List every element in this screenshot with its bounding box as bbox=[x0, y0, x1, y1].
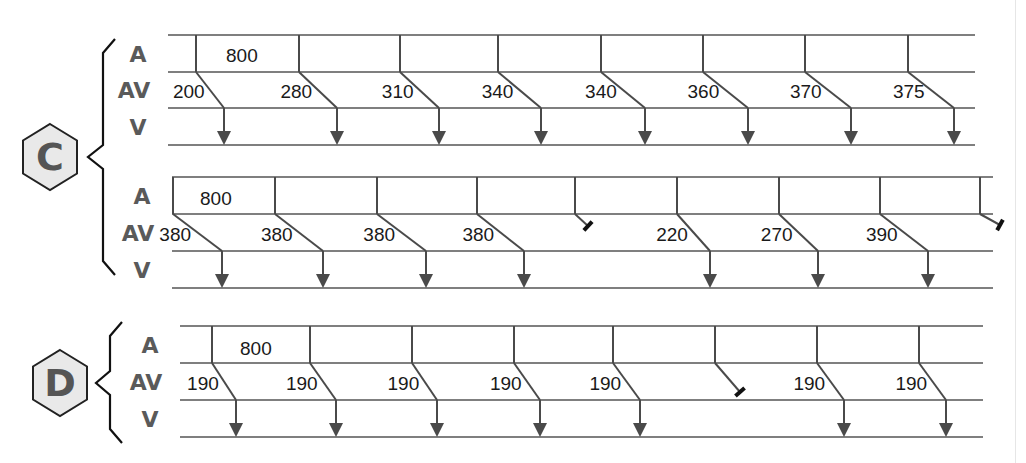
arrow-down-icon bbox=[229, 423, 243, 437]
arrow-down-icon bbox=[947, 131, 961, 145]
arrow-down-icon bbox=[329, 423, 343, 437]
tier-label-a: A bbox=[141, 333, 158, 358]
ladder-strip: AAVV800200280310340340360370375 bbox=[118, 35, 975, 145]
av-interval-label: 190 bbox=[589, 373, 621, 394]
conducted-beat: 340 bbox=[585, 35, 652, 145]
arrow-down-icon bbox=[419, 274, 433, 288]
panel-letter-label: D bbox=[44, 361, 76, 405]
brace-bracket bbox=[88, 39, 115, 275]
atrial-cycle-length-label: 800 bbox=[226, 45, 258, 66]
arrow-down-icon bbox=[517, 274, 531, 288]
tier-label-av: AV bbox=[130, 370, 163, 395]
panel-letter-label: C bbox=[36, 135, 64, 179]
tier-label-av: AV bbox=[118, 78, 151, 103]
conducted-beat: 190 bbox=[589, 326, 647, 437]
av-interval-label: 340 bbox=[585, 81, 617, 102]
conducted-beat: 375 bbox=[893, 35, 961, 145]
arrow-down-icon bbox=[330, 131, 344, 145]
av-interval-label: 370 bbox=[790, 81, 822, 102]
conducted-beat: 380 bbox=[462, 177, 531, 288]
page-edge-divider bbox=[1015, 0, 1016, 463]
conducted-beat: 220 bbox=[656, 177, 717, 288]
av-interval-label: 270 bbox=[761, 224, 793, 245]
blocked-beat bbox=[980, 177, 1003, 230]
blocked-beat bbox=[575, 177, 592, 230]
av-interval-label: 380 bbox=[261, 224, 293, 245]
conducted-beat: 190 bbox=[286, 326, 343, 437]
conducted-beat: 340 bbox=[482, 35, 548, 145]
tier-label-a: A bbox=[129, 42, 146, 67]
conduction-block-icon bbox=[997, 220, 1003, 231]
conducted-beat: 380 bbox=[363, 177, 433, 288]
conducted-beat: 360 bbox=[688, 35, 755, 145]
conducted-beat: 190 bbox=[895, 326, 953, 437]
ladder-strip: AAVV800190190190190190190190 bbox=[130, 326, 983, 437]
tier-label-av: AV bbox=[122, 221, 155, 246]
arrow-down-icon bbox=[844, 131, 858, 145]
av-interval-label: 190 bbox=[388, 373, 420, 394]
arrow-down-icon bbox=[837, 423, 851, 437]
tier-label-a: A bbox=[133, 184, 150, 209]
av-interval-label: 220 bbox=[656, 224, 688, 245]
blocked-conduction-line bbox=[715, 363, 740, 392]
conducted-beat: 190 bbox=[388, 326, 444, 437]
conducted-beat: 380 bbox=[261, 177, 330, 288]
av-interval-label: 390 bbox=[866, 224, 898, 245]
conducted-beat: 370 bbox=[790, 35, 858, 145]
arrow-down-icon bbox=[217, 131, 231, 145]
conducted-beat: 280 bbox=[280, 35, 344, 145]
conducted-beat: 190 bbox=[490, 326, 547, 437]
arrow-down-icon bbox=[741, 131, 755, 145]
conducted-beat: 200 bbox=[173, 35, 231, 145]
av-interval-label: 190 bbox=[286, 373, 318, 394]
arrow-down-icon bbox=[921, 274, 935, 288]
av-interval-label: 375 bbox=[893, 81, 925, 102]
blocked-conduction-line bbox=[980, 214, 1000, 225]
conducted-beat: 270 bbox=[761, 177, 825, 288]
arrow-down-icon bbox=[430, 423, 444, 437]
av-interval-label: 190 bbox=[490, 373, 522, 394]
blocked-beat bbox=[715, 326, 745, 396]
av-interval-label: 190 bbox=[793, 373, 825, 394]
av-interval-label: 200 bbox=[173, 81, 205, 102]
av-interval-label: 190 bbox=[187, 373, 219, 394]
arrow-down-icon bbox=[215, 274, 229, 288]
arrow-down-icon bbox=[939, 423, 953, 437]
conducted-beat: 310 bbox=[382, 35, 446, 145]
arrow-down-icon bbox=[633, 423, 647, 437]
ladder-strip: AAVV800380380380380220270390 bbox=[122, 177, 1003, 288]
av-interval-label: 380 bbox=[159, 224, 191, 245]
tier-label-v: V bbox=[141, 407, 158, 432]
ladder-diagram: CAAVV800200280310340340360370375AAVV8003… bbox=[0, 0, 1026, 463]
tier-label-v: V bbox=[133, 258, 150, 283]
conducted-beat: 390 bbox=[866, 177, 935, 288]
arrow-down-icon bbox=[432, 131, 446, 145]
arrow-down-icon bbox=[316, 274, 330, 288]
av-interval-label: 340 bbox=[482, 81, 514, 102]
blocked-conduction-line bbox=[575, 214, 588, 226]
av-interval-label: 310 bbox=[382, 81, 414, 102]
conducted-beat: 190 bbox=[187, 326, 243, 437]
brace-bracket bbox=[96, 322, 122, 443]
av-interval-label: 380 bbox=[462, 224, 494, 245]
atrial-cycle-length-label: 800 bbox=[240, 338, 272, 359]
av-interval-label: 280 bbox=[280, 81, 312, 102]
arrow-down-icon bbox=[638, 131, 652, 145]
arrow-down-icon bbox=[703, 274, 717, 288]
arrow-down-icon bbox=[534, 131, 548, 145]
av-interval-label: 360 bbox=[688, 81, 720, 102]
conducted-beat: 190 bbox=[793, 326, 851, 437]
arrow-down-icon bbox=[811, 274, 825, 288]
av-interval-label: 380 bbox=[363, 224, 395, 245]
panel-d: DAAVV800190190190190190190190 bbox=[33, 322, 983, 443]
av-interval-label: 190 bbox=[895, 373, 927, 394]
panel-c: CAAVV800200280310340340360370375AAVV8003… bbox=[23, 35, 1003, 288]
tier-label-v: V bbox=[129, 115, 146, 140]
atrial-cycle-length-label: 800 bbox=[200, 188, 232, 209]
arrow-down-icon bbox=[533, 423, 547, 437]
